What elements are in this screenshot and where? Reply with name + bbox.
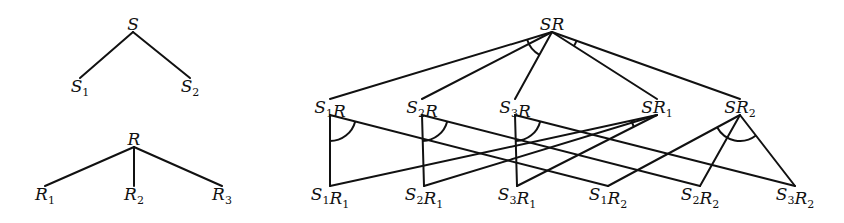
and-arc-S1R: [330, 121, 355, 141]
node-S3R2: S3R2: [776, 184, 814, 211]
edge-S-S2: [133, 32, 190, 78]
node-SR2: SR2: [724, 97, 755, 120]
and-arc-SR: [574, 41, 577, 46]
edge-SR1-S1R1: [330, 115, 657, 186]
node-S: S: [127, 14, 139, 34]
edge-R-R1: [45, 147, 134, 186]
edge-S1R-S1R2: [330, 115, 608, 186]
and-or-tree-diagram: SS1S2RR1R2R3SRS1RS2RS3RSR1SR2S1R1S2R1S3R…: [0, 0, 844, 223]
node-S3R: S3R: [499, 97, 531, 121]
and-arc-S3R: [516, 121, 540, 141]
node-S1R2: S1R2: [589, 184, 627, 211]
node-S2R2: S2R2: [681, 184, 719, 211]
edge-S2R-S2R1: [422, 115, 424, 186]
node-SR: SR: [540, 14, 565, 34]
node-S2R1: S2R1: [405, 184, 443, 211]
node-R: R: [127, 129, 141, 149]
node-SR1: SR1: [641, 97, 672, 120]
node-R1: R1: [34, 184, 55, 207]
node-S1R1: S1R1: [311, 184, 349, 211]
node-S1: S1: [71, 76, 90, 99]
edge-SR-SR1: [552, 32, 657, 99]
node-S2R: S2R: [406, 97, 438, 121]
node-R2: R2: [123, 184, 144, 207]
node-S2: S2: [181, 76, 200, 99]
edge-R-R3: [134, 147, 222, 186]
node-R3: R3: [211, 184, 232, 207]
edge-SR-SR2: [552, 32, 740, 99]
and-arc-S2R: [423, 121, 447, 141]
edge-SR2-S3R2: [740, 115, 795, 186]
edge-S3R-S3R1: [515, 115, 517, 186]
and-arcs: [330, 40, 756, 141]
edge-SR1-S2R1: [424, 115, 657, 186]
edge-S-S1: [80, 32, 133, 78]
node-S1R: S1R: [314, 97, 346, 121]
node-S3R1: S3R1: [498, 184, 536, 211]
